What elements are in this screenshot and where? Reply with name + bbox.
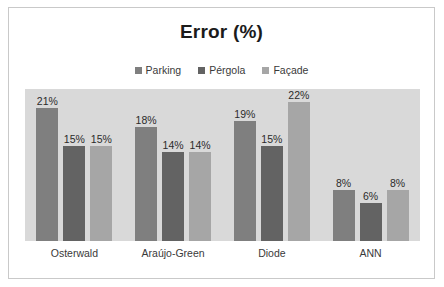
- bar-value-label: 14%: [184, 139, 216, 151]
- bar-value-label: 8%: [328, 177, 360, 189]
- bar-value-label: 8%: [382, 177, 414, 189]
- legend-entry-pergola[interactable]: Pérgola: [198, 64, 245, 76]
- category-label: Diode: [223, 247, 322, 259]
- bar[interactable]: [189, 152, 211, 241]
- bar[interactable]: [261, 146, 283, 241]
- bar[interactable]: [162, 152, 184, 241]
- bar[interactable]: [234, 121, 256, 241]
- category-label: Araújo-Green: [124, 247, 223, 259]
- bar[interactable]: [333, 190, 355, 241]
- bar[interactable]: [387, 190, 409, 241]
- legend-swatch-pergola: [198, 67, 205, 74]
- bar-value-label: 6%: [355, 190, 387, 202]
- bar-value-label: 21%: [31, 95, 63, 107]
- bar[interactable]: [36, 108, 58, 241]
- bar[interactable]: [135, 127, 157, 241]
- bar-value-label: 22%: [283, 89, 315, 101]
- bar[interactable]: [63, 146, 85, 241]
- bar-group: 19%15%22%: [234, 89, 310, 241]
- category-label: Osterwald: [25, 247, 124, 259]
- bar[interactable]: [288, 102, 310, 241]
- bar-group: 18%14%14%: [135, 89, 211, 241]
- bar-value-label: 15%: [85, 133, 117, 145]
- category-label: ANN: [321, 247, 420, 259]
- bar-group: 21%15%15%: [36, 89, 112, 241]
- chart-title: Error (%): [9, 21, 434, 43]
- plot-area: 21%15%15%18%14%14%19%15%22%8%6%8%: [25, 89, 420, 241]
- chart-frame: Error (%) Parking Pérgola Façade 21%15%1…: [8, 7, 435, 279]
- legend-swatch-parking: [135, 67, 142, 74]
- legend-label-parking: Parking: [146, 64, 182, 76]
- category-axis: OsterwaldAraújo-GreenDiodeANN: [25, 247, 420, 265]
- legend-label-pergola: Pérgola: [209, 64, 245, 76]
- legend-entry-facade[interactable]: Façade: [262, 64, 308, 76]
- bar-value-label: 19%: [229, 108, 261, 120]
- legend-entry-parking[interactable]: Parking: [135, 64, 182, 76]
- bar[interactable]: [360, 203, 382, 241]
- bar[interactable]: [90, 146, 112, 241]
- bar-group: 8%6%8%: [333, 89, 409, 241]
- bar-value-label: 18%: [130, 114, 162, 126]
- chart-legend: Parking Pérgola Façade: [9, 64, 434, 76]
- legend-label-facade: Façade: [273, 64, 308, 76]
- legend-swatch-facade: [262, 67, 269, 74]
- bar-value-label: 15%: [256, 133, 288, 145]
